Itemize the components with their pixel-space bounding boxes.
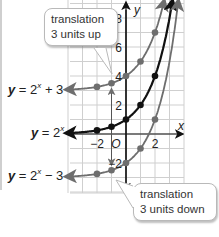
callout-translation-down: translation 3 units down (133, 183, 217, 221)
callout-translation-up: translation 3 units up (44, 8, 118, 46)
callout-up-line2: 3 units up (51, 27, 111, 42)
equation-label-minus3: y = 2x − 3 (8, 167, 63, 183)
svg-text:O: O (111, 137, 120, 151)
callout-up-line1: translation (51, 12, 111, 27)
svg-text:−2: −2 (90, 137, 104, 151)
callout-down-line2: 3 units down (140, 202, 210, 217)
equation-label-base: y = 2x (31, 124, 64, 140)
callout-up-pointer (90, 48, 120, 78)
callout-down-pointer (112, 178, 142, 218)
svg-text:x: x (177, 119, 185, 133)
svg-text:y: y (133, 3, 141, 17)
equation-label-plus3: y = 2x + 3 (8, 81, 63, 97)
svg-text:2: 2 (115, 99, 122, 113)
svg-text:2: 2 (152, 137, 159, 151)
callout-down-line1: translation (140, 187, 210, 202)
svg-text:−2: −2 (108, 157, 122, 171)
